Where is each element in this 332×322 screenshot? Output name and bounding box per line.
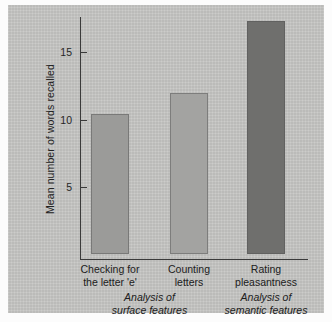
bar-3 [247,21,285,254]
bar-2 [170,93,208,254]
group-label-2: Analysis of semantic features [206,291,326,316]
bar-series [8,5,332,259]
bar-chart-figure: Mean number of words recalled 51015 Chec… [0,0,332,322]
group-label-1: Analysis of surface features [90,291,210,316]
category-label-3: Rating pleasantness [216,263,316,288]
bar-1 [91,114,129,254]
x-axis-line [80,259,308,260]
chart-panel: Mean number of words recalled 51015 Chec… [8,5,324,313]
